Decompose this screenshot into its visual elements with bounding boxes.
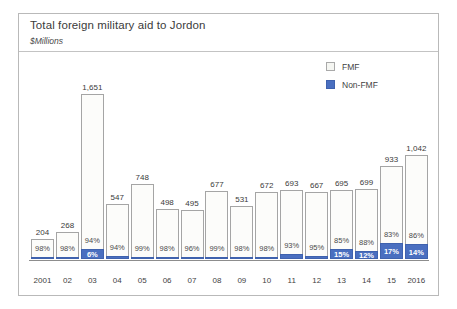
bar-stack: 93%7% <box>280 190 303 259</box>
bar-percent-label-fmf: 83% <box>381 230 402 239</box>
bar-segment-fmf: 94% <box>106 204 129 255</box>
bar-segment-fmf: 94% <box>81 94 104 249</box>
chart-header: Total foreign military aid to Jordon $Mi… <box>19 14 438 52</box>
bar-value-label: 677 <box>210 180 223 189</box>
bar-column: 69393%7% <box>280 59 303 259</box>
bar-segment-fmf: 83% <box>380 166 403 243</box>
bar-column: 53198%2% <box>230 59 253 259</box>
bar-stack: 88%12% <box>355 189 378 259</box>
bar-segment-fmf: 98% <box>255 192 278 257</box>
bar-column: 1,04286%14% <box>405 59 428 259</box>
bar-segment-fmf: 88% <box>355 189 378 250</box>
bar-segment-fmf: 98% <box>156 209 179 257</box>
x-axis-tick-label: 10 <box>255 276 278 285</box>
x-axis-tick-label: 03 <box>81 276 104 285</box>
chart-title: Total foreign military aid to Jordon <box>30 19 206 31</box>
bar-value-label: 495 <box>185 199 198 208</box>
bar-segment-fmf: 98% <box>56 232 79 257</box>
chart-container: Total foreign military aid to Jordon $Mi… <box>18 13 439 296</box>
x-axis-tick-label: 2016 <box>405 276 428 285</box>
bar-percent-label-non-fmf: 12% <box>356 250 377 259</box>
bar-percent-label-fmf: 98% <box>57 244 78 253</box>
bar-stack: 99%1% <box>205 191 228 259</box>
bar-column: 1,65194%6% <box>81 59 104 259</box>
bar-stack: 83%17% <box>380 166 403 259</box>
bar-column: 54794%6% <box>106 59 129 259</box>
bar-percent-label-fmf: 99% <box>206 244 227 253</box>
x-axis-tick-label: 15 <box>380 276 403 285</box>
bar-value-label: 498 <box>160 198 173 207</box>
bar-value-label: 1,042 <box>406 144 426 153</box>
bar-percent-label-fmf: 98% <box>256 244 277 253</box>
bar-segment-non-fmf: 15% <box>330 249 353 259</box>
x-axis-tick-label: 07 <box>181 276 204 285</box>
bar-column: 26898%2% <box>56 59 79 259</box>
bar-segment-non-fmf: 2% <box>156 257 179 259</box>
x-axis-labels: 200102030405060708091011121314152016 <box>31 276 428 285</box>
bar-stack: 94%6% <box>81 94 104 259</box>
bar-value-label: 268 <box>61 221 74 230</box>
bar-value-label: 531 <box>235 195 248 204</box>
bar-value-label: 748 <box>136 173 149 182</box>
bar-segment-fmf: 96% <box>181 210 204 257</box>
bar-value-label: 672 <box>260 181 273 190</box>
bar-value-label: 1,651 <box>82 83 102 92</box>
bar-percent-label-fmf: 85% <box>331 236 352 245</box>
bar-series-group: 20498%2%26898%2%1,65194%6%54794%6%74899%… <box>31 59 428 259</box>
bar-value-label: 204 <box>36 228 49 237</box>
bar-percent-label-non-fmf: 17% <box>381 247 402 256</box>
bar-stack: 98%2% <box>230 206 253 259</box>
bar-column: 49596%4% <box>181 59 204 259</box>
bar-column: 67298%2% <box>255 59 278 259</box>
bar-percent-label-fmf: 95% <box>306 243 327 252</box>
bar-stack: 98%2% <box>31 239 54 259</box>
x-axis-tick-label: 14 <box>355 276 378 285</box>
bar-percent-label-non-fmf: 14% <box>406 247 427 256</box>
bar-segment-non-fmf: 2% <box>230 257 253 259</box>
bar-segment-non-fmf: 12% <box>355 251 378 259</box>
bar-column: 69988%12% <box>355 59 378 259</box>
bar-segment-non-fmf: 1% <box>205 257 228 259</box>
bar-stack: 96%4% <box>181 210 204 259</box>
bar-segment-non-fmf: 14% <box>405 244 428 259</box>
x-axis-tick-label: 12 <box>305 276 328 285</box>
bar-segment-fmf: 95% <box>305 192 328 255</box>
bar-segment-non-fmf: 4% <box>181 257 204 259</box>
bar-stack: 86%14% <box>405 155 428 259</box>
bar-segment-non-fmf: 2% <box>255 257 278 259</box>
bar-percent-label-fmf: 98% <box>231 244 252 253</box>
x-axis-line <box>29 260 429 261</box>
bar-percent-label-non-fmf: 6% <box>82 250 103 259</box>
bar-percent-label-fmf: 98% <box>32 244 53 253</box>
bar-percent-label-fmf: 96% <box>182 244 203 253</box>
x-axis-tick-label: 13 <box>330 276 353 285</box>
x-axis-tick-label: 11 <box>280 276 303 285</box>
bar-column: 20498%2% <box>31 59 54 259</box>
bar-value-label: 699 <box>360 178 373 187</box>
bar-stack: 85%15% <box>330 190 353 259</box>
bar-segment-non-fmf: 17% <box>380 243 403 259</box>
bar-segment-fmf: 85% <box>330 190 353 249</box>
bar-segment-non-fmf: 6% <box>81 249 104 259</box>
bar-column: 49898%2% <box>156 59 179 259</box>
bar-value-label: 667 <box>310 181 323 190</box>
bar-percent-label-fmf: 93% <box>281 241 302 250</box>
x-axis-tick-label: 08 <box>205 276 228 285</box>
bar-percent-label-fmf: 94% <box>107 243 128 252</box>
bar-segment-fmf: 99% <box>131 184 154 257</box>
bar-column: 67799%1% <box>205 59 228 259</box>
bar-segment-fmf: 93% <box>280 190 303 254</box>
bar-segment-fmf: 98% <box>230 206 253 257</box>
bar-segment-fmf: 98% <box>31 239 54 257</box>
bar-stack: 99%1% <box>131 184 154 259</box>
bar-segment-fmf: 99% <box>205 191 228 257</box>
bar-segment-non-fmf: 6% <box>106 256 129 259</box>
bar-segment-non-fmf: 2% <box>31 257 54 259</box>
bar-stack: 94%6% <box>106 204 129 259</box>
x-axis-tick-label: 04 <box>106 276 129 285</box>
bar-stack: 98%2% <box>255 192 278 259</box>
bar-column: 69585%15% <box>330 59 353 259</box>
x-axis-tick-label: 2001 <box>31 276 54 285</box>
bar-segment-non-fmf: 2% <box>56 257 79 259</box>
bar-value-label: 547 <box>111 193 124 202</box>
